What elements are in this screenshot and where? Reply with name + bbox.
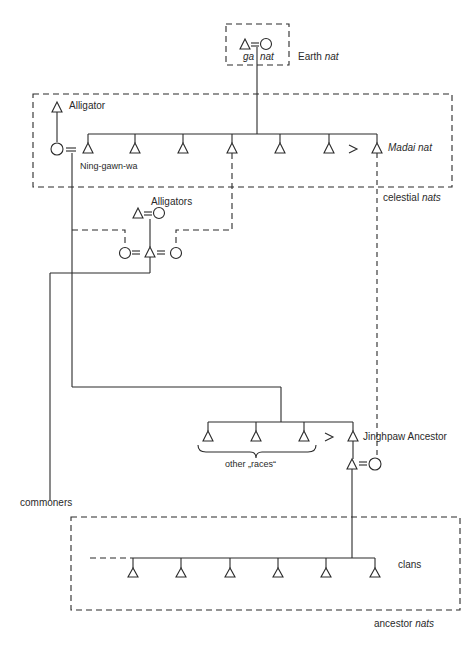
jinghpaw-ancestor-triangle-icon <box>348 431 358 441</box>
commoners-label: commoners <box>20 498 72 508</box>
male-triangle-icon <box>145 247 155 257</box>
male-triangle-icon <box>240 39 250 49</box>
ancestor-nats-label: ancestor nats <box>374 619 434 629</box>
female-circle-icon <box>154 208 165 219</box>
female-circle-icon <box>369 458 381 470</box>
male-triangle-icon <box>133 208 143 218</box>
madai-nat-label: Madai nat <box>388 143 432 153</box>
earth-couple-label-ga: ga <box>243 52 254 62</box>
female-circle-icon <box>171 248 182 259</box>
male-triangle-icon <box>347 459 357 469</box>
other-races-children <box>203 422 358 441</box>
other-races-label: other „races“ <box>225 460 276 469</box>
clans-children <box>128 558 380 577</box>
earth-couple-label-nat: nat <box>260 52 274 62</box>
alligator-triangle-icon <box>52 102 62 112</box>
female-circle-icon <box>51 143 63 155</box>
ning-gawn-wa-label: Ning-gawn-wa <box>80 162 138 171</box>
alligators-label: Alligators <box>151 197 192 207</box>
jinghpaw-ancestor-label: Jinghpaw Ancestor <box>363 432 447 442</box>
female-circle-icon <box>261 39 272 50</box>
clans-label: clans <box>398 560 421 570</box>
alligator-label: Alligator <box>69 101 105 111</box>
female-circle-icon <box>120 248 131 259</box>
kinship-diagram <box>0 0 471 645</box>
celestial-children <box>83 134 382 153</box>
brace-icon <box>198 445 316 458</box>
earth-nat-label: Earth nat <box>298 52 339 62</box>
celestial-nats-label: celestial nats <box>383 193 441 203</box>
